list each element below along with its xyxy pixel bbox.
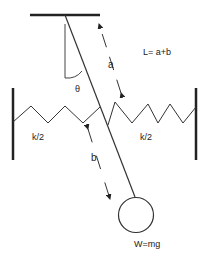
weight-label: W=mg (134, 239, 160, 249)
a-label: a (108, 59, 114, 70)
theta-label: θ (75, 84, 80, 94)
pendulum-rod (65, 15, 135, 197)
pendulum-spring-diagram: L= a+b a θ k/2 k/2 b W=mg (0, 0, 208, 261)
left-spring-constant-label: k/2 (32, 132, 44, 142)
right-spring-constant-label: k/2 (140, 132, 152, 142)
b-label: b (91, 152, 97, 163)
length-equation-label: L= a+b (143, 47, 171, 57)
theta-angle-arc (65, 71, 82, 78)
pendulum-bob (119, 198, 154, 233)
left-spring (13, 106, 100, 123)
dimension-arrow-b (88, 129, 110, 199)
right-spring (108, 102, 196, 125)
